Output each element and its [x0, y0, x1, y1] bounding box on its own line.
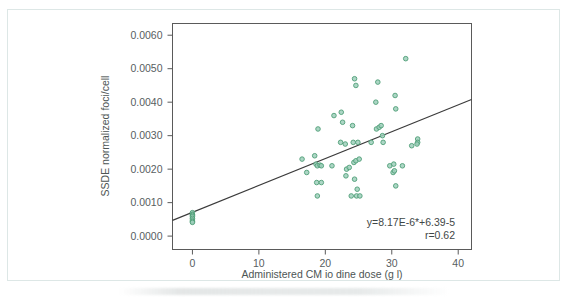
- data-point: [312, 153, 317, 158]
- y-tick-label: 0.0000: [130, 230, 162, 242]
- y-tick-label: 0.0010: [130, 196, 162, 208]
- x-tick-label: 0: [190, 257, 196, 269]
- data-point: [393, 93, 398, 98]
- y-tick-label: 0.0040: [130, 96, 162, 108]
- data-point: [304, 170, 309, 175]
- data-point: [356, 140, 361, 145]
- data-point: [374, 100, 379, 105]
- data-point: [352, 177, 357, 182]
- data-point: [403, 56, 408, 61]
- y-axis: 0.00000.00100.00200.00300.00400.00500.00…: [130, 29, 172, 242]
- x-axis: 010203040: [190, 250, 465, 269]
- data-point: [358, 194, 363, 199]
- y-tick-label: 0.0050: [130, 62, 162, 74]
- x-tick-label: 30: [386, 257, 398, 269]
- data-point: [379, 123, 384, 128]
- data-point: [415, 142, 420, 147]
- data-point: [349, 194, 354, 199]
- data-point: [319, 180, 324, 185]
- data-point: [319, 164, 324, 169]
- data-point: [339, 110, 344, 115]
- data-point: [352, 76, 357, 81]
- data-point: [354, 83, 359, 88]
- data-point: [330, 164, 335, 169]
- data-point: [381, 140, 386, 145]
- data-point: [340, 120, 345, 125]
- data-point: [355, 187, 360, 192]
- data-point: [315, 194, 320, 199]
- data-point: [343, 142, 348, 147]
- scatter-chart: 0.00000.00100.00200.00300.00400.00500.00…: [0, 0, 568, 302]
- y-tick-label: 0.0020: [130, 163, 162, 175]
- y-tick-label: 0.0030: [130, 129, 162, 141]
- data-point: [350, 123, 355, 128]
- data-point: [369, 140, 374, 145]
- data-point: [344, 174, 349, 179]
- data-point: [409, 143, 414, 148]
- data-point: [332, 113, 337, 118]
- data-point: [376, 80, 381, 85]
- data-point: [357, 157, 362, 162]
- data-point: [316, 127, 321, 132]
- y-tick-label: 0.0060: [130, 29, 162, 41]
- data-point: [300, 157, 305, 162]
- x-tick-label: 20: [319, 257, 331, 269]
- data-point: [393, 184, 398, 189]
- data-point: [190, 220, 195, 225]
- data-point: [392, 169, 397, 174]
- data-point: [351, 140, 356, 145]
- data-point: [391, 162, 396, 167]
- y-axis-title: SSDE normalized foci/cell: [99, 76, 111, 197]
- x-axis-title: Administered CM io dine dose (g l): [241, 268, 402, 280]
- data-point: [380, 133, 385, 138]
- correlation-coefficient-label: r=0.62: [425, 229, 455, 241]
- data-point: [347, 165, 352, 170]
- regression-equation-label: y=8.17E-6*+6.39-5: [367, 216, 455, 228]
- data-point: [393, 107, 398, 112]
- figure-root: 0.00000.00100.00200.00300.00400.00500.00…: [0, 0, 568, 302]
- data-point: [338, 140, 343, 145]
- x-tick-label: 10: [253, 257, 265, 269]
- x-tick-label: 40: [452, 257, 464, 269]
- data-point: [314, 180, 319, 185]
- scan-artifact: [120, 288, 450, 295]
- data-point: [400, 164, 405, 169]
